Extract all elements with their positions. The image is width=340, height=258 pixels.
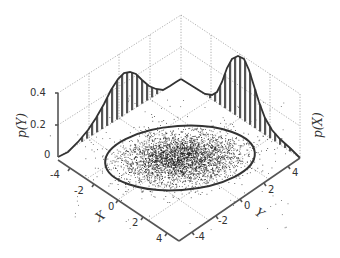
y-tick--2: -2 [218, 215, 228, 226]
z-tick-0.4: 0.4 [30, 87, 46, 98]
p-x-axis-label: p(X) [311, 112, 325, 138]
y-tick-0: 0 [244, 200, 250, 211]
p-y-curve [58, 72, 181, 157]
x-tick-4: 4 [156, 233, 162, 244]
x-axis-label: X [92, 208, 108, 225]
x-tick-0: 0 [108, 201, 114, 212]
y-tick-2: 2 [268, 184, 274, 195]
x-tick-2: 2 [132, 217, 138, 228]
x-tick--2: -2 [74, 185, 84, 196]
z-tick-0: 0 [44, 149, 50, 160]
y-tick--4: -4 [195, 231, 205, 242]
p-y-axis-label: p(Y) [15, 113, 29, 138]
x-tick--4: -4 [50, 169, 60, 180]
z-tick-0.2: 0.2 [30, 119, 46, 130]
y-tick-4: 4 [292, 167, 298, 178]
bivariate-gaussian-3d-chart: 0.4 0.2 0 p(Y) p(X) -4 -2 0 2 4 X -4 -2 … [0, 0, 340, 258]
y-axis-label: Y [252, 205, 267, 222]
